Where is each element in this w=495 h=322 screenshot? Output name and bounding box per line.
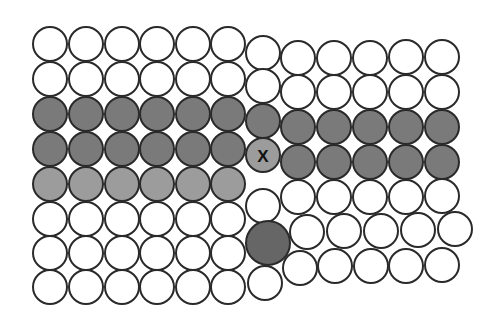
atom [176,202,210,236]
atom [281,75,315,109]
atom [353,180,387,214]
atom [105,167,139,201]
atom [176,270,210,304]
atom [425,248,459,282]
atom [246,104,280,138]
atom [33,97,67,131]
atom [176,132,210,166]
atom [69,97,103,131]
atom [317,41,351,75]
atom [176,62,210,96]
atom [317,180,351,214]
atom [33,27,67,61]
atom [246,69,280,103]
atom [69,167,103,201]
atom [389,75,423,109]
atom [211,236,245,270]
atom [401,213,435,247]
atom [283,251,317,285]
atom [281,41,315,75]
atom [353,75,387,109]
atom [33,202,67,236]
atom [140,236,174,270]
atom [140,27,174,61]
atom [69,62,103,96]
atom [69,132,103,166]
atom [389,40,423,74]
atom [33,270,67,304]
atom [33,62,67,96]
atom [105,132,139,166]
atom [105,202,139,236]
labeled-atom-x: X [246,138,280,172]
atom [176,236,210,270]
atom [353,41,387,75]
atom [211,62,245,96]
atom [327,214,361,248]
atom [318,249,352,283]
atom [425,75,459,109]
atom [248,266,282,300]
atom [140,167,174,201]
atom [211,202,245,236]
atom [281,110,315,144]
atom [211,27,245,61]
atom [389,249,423,283]
atom [246,36,280,70]
atom [354,249,388,283]
atom [140,97,174,131]
atom [353,145,387,179]
atom [389,180,423,214]
atom [317,145,351,179]
atom [140,270,174,304]
atom [389,110,423,144]
atom [281,180,315,214]
atom [176,27,210,61]
atom [246,189,280,223]
atom [425,145,459,179]
atom [211,167,245,201]
atom [364,214,398,248]
atom [211,270,245,304]
atom [105,270,139,304]
atom [211,132,245,166]
atom [425,40,459,74]
atom [211,97,245,131]
atom [140,132,174,166]
atom [69,270,103,304]
atom [176,167,210,201]
atom [140,62,174,96]
atom [69,236,103,270]
lattice-diagram: X [0,0,495,322]
atom [425,179,459,213]
impurity-atom [246,221,290,265]
atom [33,167,67,201]
atom [105,97,139,131]
atom [281,145,315,179]
atom [69,27,103,61]
atom [176,97,210,131]
atom [105,236,139,270]
atom [317,75,351,109]
atom [69,202,103,236]
atom [425,110,459,144]
atom [353,110,387,144]
atom [33,236,67,270]
atom [290,215,324,249]
atom [105,27,139,61]
atom [438,212,472,246]
atom [389,145,423,179]
atom [105,62,139,96]
atom-x-label: X [257,147,269,166]
atom [33,132,67,166]
atom [140,202,174,236]
atom [317,110,351,144]
